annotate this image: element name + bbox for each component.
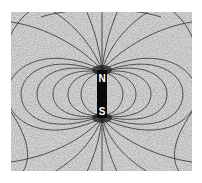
north-pole-label: N [97,74,107,84]
bar-magnet: N S [97,70,107,118]
iron-filings-photo: N S [11,12,192,171]
south-pole-label: S [97,107,107,117]
